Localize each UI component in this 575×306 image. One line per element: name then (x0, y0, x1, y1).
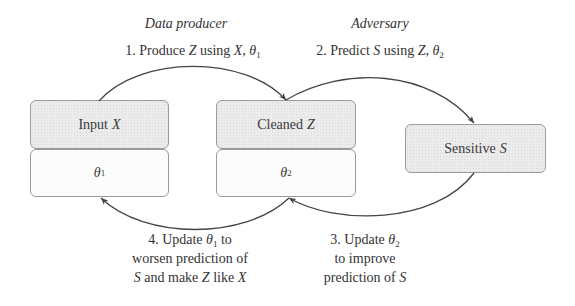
step4-label: 4. Update θ1 to worsen prediction of S a… (100, 230, 280, 287)
step1-label: 1. Produce Z using X, θ1 (103, 41, 283, 60)
role-label-data-producer: Data producer (131, 16, 241, 32)
step2-label: 2. Predict S using Z, θ2 (290, 41, 470, 60)
step4-line1: 4. Update θ1 to (100, 230, 280, 249)
arrow-step1 (99, 66, 286, 101)
step4-line3: S and make Z like X (100, 268, 280, 287)
adversarial-training-diagram: Data producer Adversary 1. Produce Z usi… (0, 0, 575, 306)
step3-line1: 3. Update θ2 (295, 230, 435, 249)
node-theta1: θ1 (30, 149, 169, 197)
node-cleaned-z: CleanedZ (216, 100, 356, 149)
step4-line2: worsen prediction of (100, 249, 280, 268)
arrow-step4 (101, 198, 289, 230)
node-sensitive-s: SensitiveS (405, 124, 546, 173)
step3-label: 3. Update θ2 to improve prediction of S (295, 230, 435, 287)
role-label-adversary: Adversary (330, 16, 430, 32)
node-input-x: InputX (30, 100, 169, 149)
step3-line3: prediction of S (295, 268, 435, 287)
step3-line2: to improve (295, 249, 435, 268)
node-theta2: θ2 (216, 149, 356, 197)
